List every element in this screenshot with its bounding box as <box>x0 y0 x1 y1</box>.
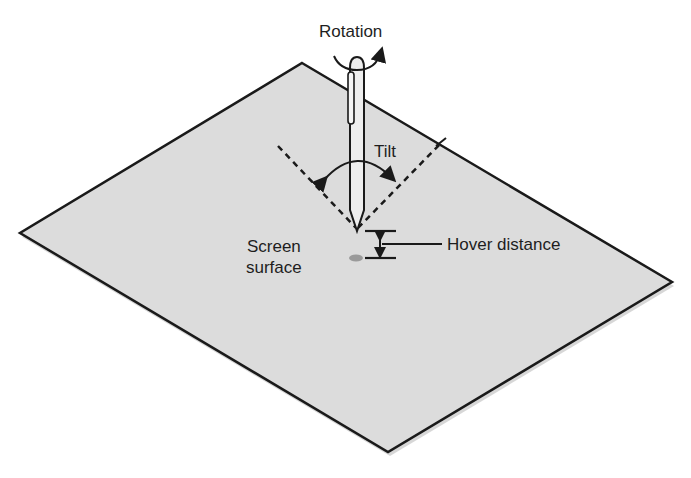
hover-point-dot <box>349 255 363 262</box>
tilt-label: Tilt <box>374 142 396 162</box>
screen-surface-label-line2: surface <box>246 257 302 278</box>
stylus-pen-icon <box>348 57 364 231</box>
pen-input-diagram: Rotation Tilt Hover distance Screen surf… <box>0 0 691 478</box>
screen-surface-label-line1: Screen <box>246 236 302 257</box>
diagram-canvas <box>0 0 691 478</box>
screen-surface-label: Screen surface <box>246 236 302 278</box>
screen-surface-plane <box>20 63 672 452</box>
hover-distance-label: Hover distance <box>447 235 560 255</box>
rotation-label: Rotation <box>319 22 382 42</box>
pen-clip <box>348 72 354 124</box>
